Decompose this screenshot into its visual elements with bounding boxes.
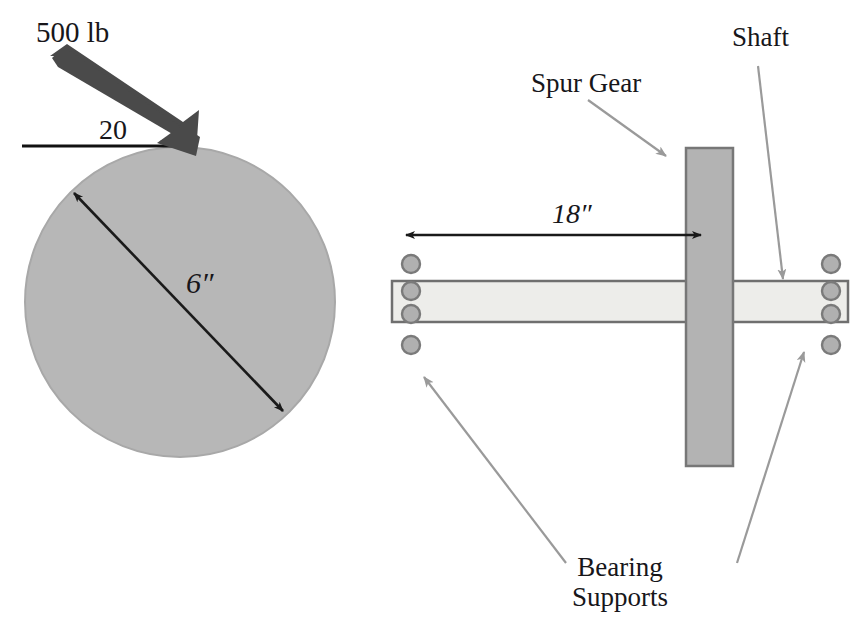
bearing-supports-label-line2: Supports (572, 582, 668, 612)
bearing-roller (402, 336, 420, 354)
span-dimension-label: 18″ (552, 198, 592, 229)
spur-gear-label: Spur Gear (531, 68, 641, 98)
force-angle-label: 20 (99, 114, 127, 145)
engineering-diagram: 500 lb 20 6″ 18″ Spur Gear Shaft Bearing… (0, 0, 863, 640)
bearing-roller (822, 336, 840, 354)
bearing-roller (402, 305, 420, 323)
bearing-roller (822, 255, 840, 273)
bearing-roller (822, 305, 840, 323)
bearing-supports-label: Bearing Supports (572, 552, 668, 612)
bearing-roller (402, 255, 420, 273)
bearing-left-leader-line (424, 377, 566, 563)
shaft-leader-line (758, 66, 783, 279)
diagram-canvas (0, 0, 863, 640)
shaft-label: Shaft (732, 22, 789, 52)
force-magnitude-label: 500 lb (36, 16, 109, 48)
disk-diameter-label: 6″ (186, 266, 214, 300)
bearing-supports-label-line1: Bearing (572, 552, 668, 582)
spur-gear-bar (686, 148, 733, 466)
bearing-roller (402, 282, 420, 300)
shaft-bar (392, 281, 848, 322)
bearing-right-leader-line (737, 352, 804, 563)
spur-gear-leader-line (588, 100, 666, 156)
bearing-roller (822, 282, 840, 300)
